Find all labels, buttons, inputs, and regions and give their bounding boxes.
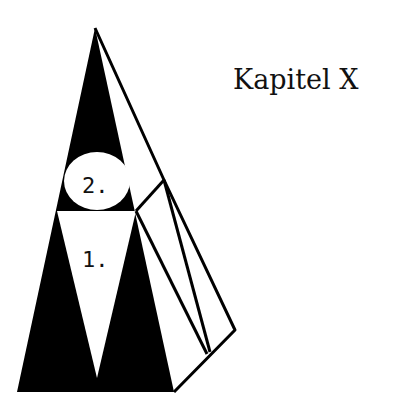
label-2: 2.: [82, 173, 109, 198]
facet-line: [136, 180, 164, 211]
label-1: 1.: [82, 247, 109, 272]
pyramid-diagram: 2. 1.: [0, 0, 405, 402]
